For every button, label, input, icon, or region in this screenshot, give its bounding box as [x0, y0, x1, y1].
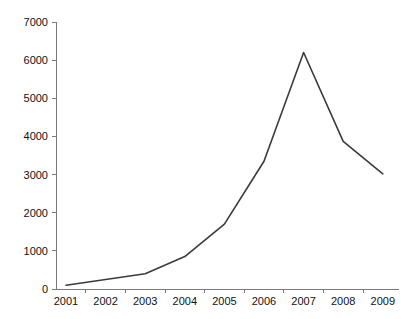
y-tick-label: 0	[42, 283, 48, 295]
chart-canvas: 01000200030004000500060007000 2001200220…	[0, 0, 417, 319]
x-tick-label: 2009	[371, 295, 395, 307]
y-tick-label: 6000	[24, 54, 48, 66]
y-tick-label: 3000	[24, 169, 48, 181]
x-tick-label: 2003	[133, 295, 157, 307]
x-tick-label: 2001	[54, 295, 78, 307]
x-tick-label: 2002	[93, 295, 117, 307]
x-tick-label: 2008	[331, 295, 355, 307]
y-tick-label: 4000	[24, 130, 48, 142]
x-tick-label: 2007	[291, 295, 315, 307]
line-chart: 01000200030004000500060007000 2001200220…	[0, 0, 417, 319]
y-tick-label: 7000	[24, 16, 48, 28]
x-tick-label: 2004	[173, 295, 197, 307]
x-tick-label: 2006	[252, 295, 276, 307]
y-tick-label: 2000	[24, 207, 48, 219]
y-tick-label: 5000	[24, 92, 48, 104]
chart-background	[0, 0, 417, 319]
x-tick-label: 2005	[212, 295, 236, 307]
y-tick-label: 1000	[24, 245, 48, 257]
